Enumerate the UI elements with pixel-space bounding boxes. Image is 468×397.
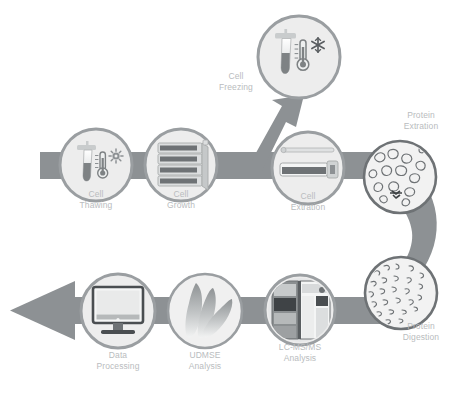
- stacked-culture-flasks-icon: [158, 140, 208, 190]
- node-lc-msms-analysis[interactable]: [265, 275, 335, 345]
- cell-scraper-tube-icon: [280, 147, 338, 178]
- label-cell-freezing: Cell Freezing: [199, 71, 273, 92]
- cut-off-caption: [0, 390, 468, 397]
- node-protein-digestion[interactable]: [365, 257, 437, 329]
- connector-exit-arrowhead: [10, 281, 75, 340]
- label-protein-extration: Protein Extration: [381, 110, 461, 131]
- label-cell-extration: Cell Extration: [268, 191, 348, 212]
- label-lc-msms-analysis: LC-MS/MS Analysis: [260, 342, 340, 363]
- label-data-processing: Data Processing: [78, 350, 158, 371]
- label-cell-thawing: Cell Thawing: [56, 189, 136, 210]
- label-protein-digestion: Protein Digestion: [381, 321, 461, 342]
- workflow-diagram: Cell Thawing Cell Growth Cell Freezing C…: [0, 0, 468, 397]
- node-data-processing[interactable]: [81, 274, 155, 348]
- node-udmse-analysis[interactable]: [168, 274, 242, 348]
- mass-spectrometer-icon: [268, 278, 332, 342]
- sun-icon: [109, 149, 123, 163]
- label-cell-growth: Cell Growth: [141, 189, 221, 210]
- label-udmse-analysis: UDMSE Analysis: [165, 350, 245, 371]
- node-protein-extration[interactable]: [364, 141, 436, 213]
